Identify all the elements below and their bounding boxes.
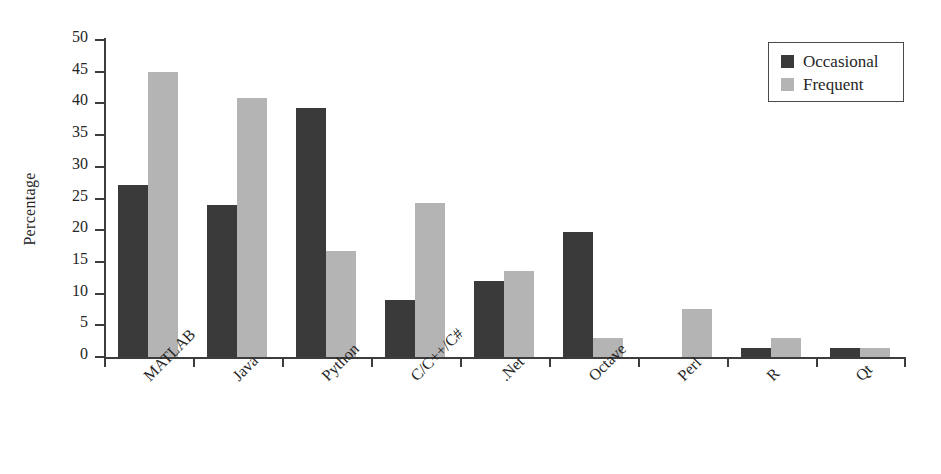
x-axis-tick-mark (816, 357, 818, 367)
y-axis-tick-label: 10 (52, 282, 88, 300)
y-axis-tick-label: 50 (52, 28, 88, 46)
bar-frequent-matlab (148, 72, 178, 357)
y-axis-tick-label: 25 (52, 187, 88, 205)
bar-frequent-r (771, 338, 801, 357)
x-axis-category-label: Qt (852, 361, 876, 385)
y-axis-label: Percentage (0, 0, 60, 474)
y-axis-tick-mark (95, 356, 104, 358)
y-axis-tick-label: 20 (52, 218, 88, 236)
bar-frequent-java (237, 98, 267, 357)
bar-occasional-qt (830, 348, 860, 358)
bar-occasional-c-c-c- (385, 300, 415, 357)
legend-item-occasional[interactable]: Occasional (781, 50, 903, 73)
y-axis-tick-label: 35 (52, 123, 88, 141)
x-axis-tick-mark (904, 357, 906, 367)
y-axis-tick-mark (95, 134, 104, 136)
y-axis-tick-mark (95, 198, 104, 200)
y-axis-tick-mark (95, 39, 104, 41)
x-axis-category-label: R (763, 364, 783, 384)
y-axis-tick-label: 45 (52, 60, 88, 78)
x-axis-tick-mark (193, 357, 195, 367)
y-axis-tick-label: 15 (52, 250, 88, 268)
x-axis-tick-mark (104, 357, 106, 367)
x-axis-tick-mark (638, 357, 640, 367)
y-axis-tick-label: 0 (52, 345, 88, 363)
y-axis-label-text: Percentage (21, 119, 39, 299)
legend-label: Occasional (803, 53, 879, 70)
y-axis-tick-mark (95, 293, 104, 295)
y-axis-tick-label: 30 (52, 155, 88, 173)
legend-swatch-icon (781, 55, 794, 68)
y-axis-tick-mark (95, 324, 104, 326)
y-axis-tick-mark (95, 166, 104, 168)
legend: OccasionalFrequent (768, 42, 904, 102)
x-axis-tick-mark (727, 357, 729, 367)
bar-chart-figure: Percentage 05101520253035404550 Occasion… (0, 0, 941, 474)
x-axis-tick-mark (371, 357, 373, 367)
y-axis-tick-mark (95, 102, 104, 104)
bar-frequent-c-c-c- (415, 203, 445, 357)
y-axis-tick-mark (95, 229, 104, 231)
bar-frequent-qt (860, 348, 890, 358)
bar-occasional-matlab (118, 185, 148, 357)
y-axis-tick-label: 5 (52, 313, 88, 331)
legend-label: Frequent (803, 76, 863, 93)
bar-occasional-r (741, 348, 771, 358)
bar-occasional--net (474, 281, 504, 357)
x-axis-tick-mark (549, 357, 551, 367)
y-axis-tick-mark (95, 71, 104, 73)
y-axis-tick-label: 40 (52, 91, 88, 109)
legend-swatch-icon (781, 78, 794, 91)
bar-frequent-perl (682, 309, 712, 357)
x-axis-line (104, 357, 906, 359)
bar-occasional-java (207, 205, 237, 357)
x-axis-tick-mark (282, 357, 284, 367)
bar-occasional-python (296, 108, 326, 357)
x-axis-tick-mark (460, 357, 462, 367)
bar-frequent--net (504, 271, 534, 357)
y-axis-tick-mark (95, 261, 104, 263)
legend-item-frequent[interactable]: Frequent (781, 73, 903, 96)
bar-occasional-octave (563, 232, 593, 357)
